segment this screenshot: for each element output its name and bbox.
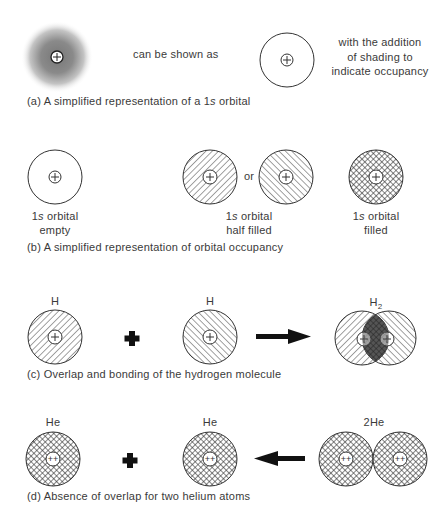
label-h2-molecule: H2 xyxy=(370,296,383,311)
caption-c: (c) Overlap and bonding of the hydrogen … xyxy=(27,368,281,380)
plus-icon xyxy=(125,331,140,346)
helium-atom-2: ++ xyxy=(183,432,237,486)
svg-text:++: ++ xyxy=(48,454,59,464)
middle-text: can be shown as xyxy=(133,48,219,60)
svg-text:++: ++ xyxy=(341,454,352,464)
label-h2: H xyxy=(206,295,214,307)
orbital-empty xyxy=(28,150,82,204)
label-h1: H xyxy=(51,295,59,307)
caption-b: (b) A simplified representation of orbit… xyxy=(27,241,283,253)
label-he2: He xyxy=(203,416,217,428)
orbital-half-filled-b xyxy=(259,150,313,204)
arrow-left-icon xyxy=(254,451,305,466)
caption-a: (a) A simplified representation of a 1s … xyxy=(27,95,250,107)
label-filled: 1s orbital filled xyxy=(353,209,400,237)
orbital-outline-simple xyxy=(260,33,314,87)
hydrogen-atom-2 xyxy=(183,310,237,364)
label-he1: He xyxy=(46,416,60,428)
shading-note-line: indicate occupancy xyxy=(331,64,428,79)
arrow-right-icon xyxy=(256,329,311,344)
plus-icon xyxy=(123,453,138,468)
shading-note: with the addition of shading to indicate… xyxy=(331,35,428,79)
orbital-filled xyxy=(349,150,403,204)
svg-text:++: ++ xyxy=(205,454,216,464)
nucleus-icon xyxy=(51,51,63,63)
svg-text:++: ++ xyxy=(395,454,406,464)
label-half-filled: 1s orbital half filled xyxy=(226,209,273,237)
hydrogen-atom-1 xyxy=(28,310,82,364)
shading-note-line: of shading to xyxy=(331,50,428,65)
helium-pair: ++ ++ xyxy=(319,432,427,486)
label-empty: 1s orbital empty xyxy=(32,209,79,237)
shading-note-line: with the addition xyxy=(331,35,428,50)
helium-atom-1: ++ xyxy=(26,432,80,486)
or-text: or xyxy=(244,170,254,182)
hydrogen-molecule xyxy=(335,311,416,365)
caption-d: (d) Absence of overlap for two helium at… xyxy=(27,490,250,502)
orbital-half-filled-a xyxy=(183,150,237,204)
label-2he: 2He xyxy=(364,416,385,428)
